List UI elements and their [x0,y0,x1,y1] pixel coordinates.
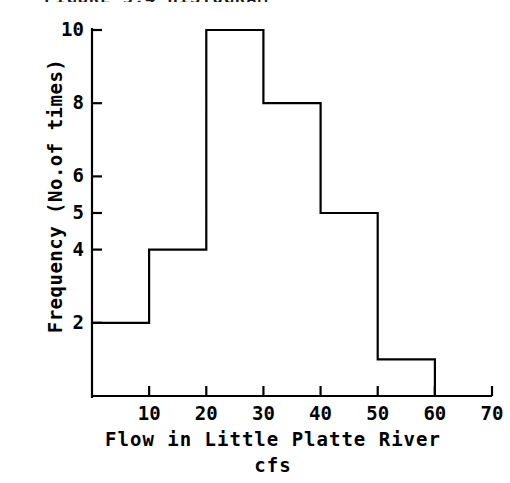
y-axis-title: Frequency (No.of times) [44,46,66,346]
x-tick-label: 40 [301,404,341,423]
x-tick-label: 20 [186,404,226,423]
y-tick-label: 10 [50,20,84,39]
x-tick-label: 60 [415,404,455,423]
x-tick-label: 10 [129,404,169,423]
y-axis-ticks [92,30,102,323]
x-tick-label: 30 [243,404,283,423]
axis-lines [92,28,492,398]
x-axis-ticks [149,386,492,396]
x-tick-label: 70 [472,404,510,423]
x-axis-title-line2: cfs [58,453,488,479]
x-axis-title: Flow in Little Platte River cfs [58,427,488,478]
x-axis-title-line1: Flow in Little Platte River [105,428,441,450]
histogram-step-outline [92,30,435,396]
chart-plot-area: 2456810 10203040506070 Frequency (No.of … [0,0,510,483]
x-tick-label: 50 [358,404,398,423]
